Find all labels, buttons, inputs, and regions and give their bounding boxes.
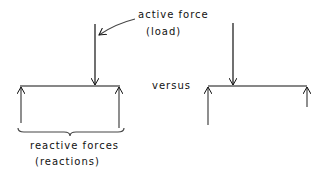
right-beam-diagram (208, 23, 307, 125)
versus-label: versus (152, 80, 191, 91)
force-diagram: active force (load) versus reactive forc… (0, 0, 317, 176)
reactions-brace (18, 128, 124, 136)
reactive-forces-label: reactive forces (30, 140, 119, 151)
reactions-label: (reactions) (35, 156, 100, 167)
load-label: (load) (146, 26, 181, 37)
left-beam-diagram (18, 19, 135, 136)
pointer-arrow (99, 19, 135, 35)
active-force-label: active force (138, 9, 209, 20)
